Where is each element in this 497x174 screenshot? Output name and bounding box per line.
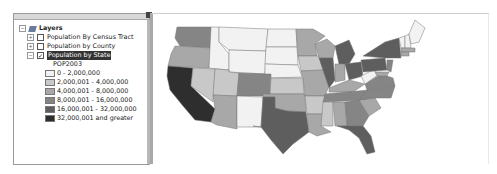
expand-icon[interactable]: + <box>27 34 34 41</box>
legend-class[interactable]: 16,000,001 - 32,000,000 <box>19 105 137 114</box>
state-new-jersey <box>387 60 393 72</box>
collapse-icon[interactable]: − <box>19 25 26 32</box>
state-kentucky <box>329 80 365 92</box>
state-maine <box>409 20 425 44</box>
state-massachusetts <box>401 48 415 52</box>
legend-class[interactable]: 8,000,001 - 16,000,000 <box>19 96 137 105</box>
state-utah <box>213 69 239 96</box>
state-ohio <box>345 62 363 80</box>
legend-class-label: 4,000,001 - 8,000,000 <box>57 87 128 96</box>
legend-class-label: 2,000,001 - 4,000,000 <box>57 78 128 87</box>
state-arizona <box>211 95 237 129</box>
state-mississippi <box>321 102 333 126</box>
legend-class[interactable]: 2,000,001 - 4,000,000 <box>19 78 137 87</box>
layer-state[interactable]: − ✓ Population by State <box>19 51 137 60</box>
legend-class[interactable]: 0 - 2,000,000 <box>19 69 137 78</box>
legend-class[interactable]: 4,000,001 - 8,000,000 <box>19 87 137 96</box>
state-michigan <box>335 40 355 64</box>
legend-swatch <box>45 97 55 104</box>
state-kansas <box>270 78 304 94</box>
state-new-york <box>363 38 401 58</box>
state-washington <box>175 27 211 48</box>
state-oregon <box>168 46 211 68</box>
layer-label: Population by State <box>47 51 111 60</box>
state-north-dakota <box>266 29 297 47</box>
state-connecticut <box>401 52 409 56</box>
layers-root[interactable]: − Layers <box>19 24 137 33</box>
legend-class-label: 0 - 2,000,000 <box>57 69 100 78</box>
state-montana <box>219 27 268 51</box>
legend-field: POP2003 <box>19 60 137 69</box>
state-florida <box>337 126 375 154</box>
legend-class-label: 32,000,001 and greater <box>57 114 133 123</box>
legend-field-label: POP2003 <box>53 60 82 69</box>
legend-swatch <box>45 115 55 122</box>
legend-class[interactable]: 32,000,001 and greater <box>19 114 137 123</box>
layer-label: Population By Census Tract <box>47 33 134 42</box>
legend-swatch <box>45 79 55 86</box>
state-south-dakota <box>265 47 298 65</box>
expand-icon[interactable]: + <box>27 43 34 50</box>
state-wyoming <box>229 50 266 74</box>
state-alabama <box>333 102 347 126</box>
layers-root-label: Layers <box>39 24 63 33</box>
layer-census-tract[interactable]: + Population By Census Tract <box>19 33 137 42</box>
us-states-map[interactable] <box>153 14 488 164</box>
layer-checkbox[interactable]: ✓ <box>37 52 44 59</box>
legend-swatch <box>45 70 55 77</box>
legend-class-label: 8,000,001 - 16,000,000 <box>57 96 132 105</box>
legend-swatch <box>45 106 55 113</box>
legend-class-label: 16,000,001 - 32,000,000 <box>57 105 137 114</box>
layers-icon <box>28 26 37 32</box>
layer-checkbox[interactable] <box>37 43 44 50</box>
legend-swatch <box>45 88 55 95</box>
layer-county[interactable]: + Population by County <box>19 42 137 51</box>
collapse-icon[interactable]: − <box>27 52 34 59</box>
layer-label: Population by County <box>47 42 115 51</box>
state-maryland <box>375 72 389 76</box>
state-indiana <box>335 64 345 82</box>
state-pennsylvania <box>361 58 387 72</box>
state-new-mexico <box>237 96 263 127</box>
layer-checkbox[interactable] <box>37 34 44 41</box>
table-of-contents-panel: − Layers + Population By Census Tract + … <box>13 13 150 165</box>
panel-titlebar[interactable] <box>14 14 149 20</box>
state-colorado <box>237 73 271 96</box>
layer-tree: − Layers + Population By Census Tract + … <box>19 24 137 123</box>
map-view[interactable] <box>150 13 489 164</box>
